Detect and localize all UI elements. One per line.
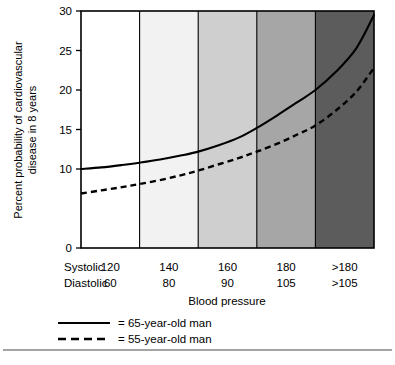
y-tick-label-0: 0 (66, 242, 72, 254)
y-axis-title-line1: Percent probability of cardiovascular (12, 41, 24, 219)
x-row-diastolic-value-3: 90 (221, 277, 234, 289)
legend-label-1: = 65-year-old man (118, 317, 212, 329)
y-axis-title-line2: disease in 8 years (26, 85, 38, 174)
y-tick-label-10: 10 (59, 163, 72, 175)
band-5 (315, 11, 374, 248)
x-row-diastolic-value-1: 60 (104, 277, 117, 289)
x-row-systolic-value-1: 120 (101, 261, 120, 273)
y-tick-label-30: 30 (59, 5, 72, 17)
band-1 (81, 11, 140, 248)
band-3 (198, 11, 257, 248)
y-tick-label-25: 25 (59, 45, 72, 57)
x-axis-title: Blood pressure (188, 295, 265, 307)
y-tick-label-20: 20 (59, 84, 72, 96)
x-row-name-diastolic: Diastolic (64, 277, 108, 289)
x-row-diastolic-value-4: 105 (277, 277, 296, 289)
x-row-systolic-value-4: 180 (277, 261, 296, 273)
background-bands (81, 11, 374, 248)
legend-label-2: = 55-year-old man (118, 333, 212, 345)
x-row-systolic-value-5: >180 (332, 261, 358, 273)
chart-figure: 01015202530 Percent probability of cardi… (0, 0, 395, 365)
x-row-systolic-value-2: 140 (159, 261, 178, 273)
x-row-name-systolic: Systolic (64, 261, 104, 273)
y-tick-label-15: 15 (59, 124, 72, 136)
x-row-diastolic-value-2: 80 (163, 277, 176, 289)
x-row-diastolic-value-5: >105 (332, 277, 358, 289)
x-row-systolic-value-3: 160 (218, 261, 237, 273)
cardiovascular-risk-chart: 01015202530 Percent probability of cardi… (0, 0, 395, 365)
band-2 (140, 11, 199, 248)
